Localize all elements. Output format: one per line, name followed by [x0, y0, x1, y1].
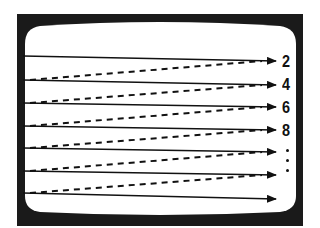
ellipsis-dot — [286, 149, 289, 152]
ellipsis-dot — [286, 159, 289, 162]
line-number-label: 6 — [282, 99, 290, 116]
tv-screen — [25, 22, 296, 215]
line-number-label: 4 — [282, 76, 290, 93]
line-number-label: 2 — [282, 53, 290, 70]
tv-screen-diagram — [0, 0, 320, 228]
line-number-label: 8 — [282, 122, 290, 139]
ellipsis-dot — [286, 169, 289, 172]
interlace-diagram: 2468 — [0, 0, 320, 228]
